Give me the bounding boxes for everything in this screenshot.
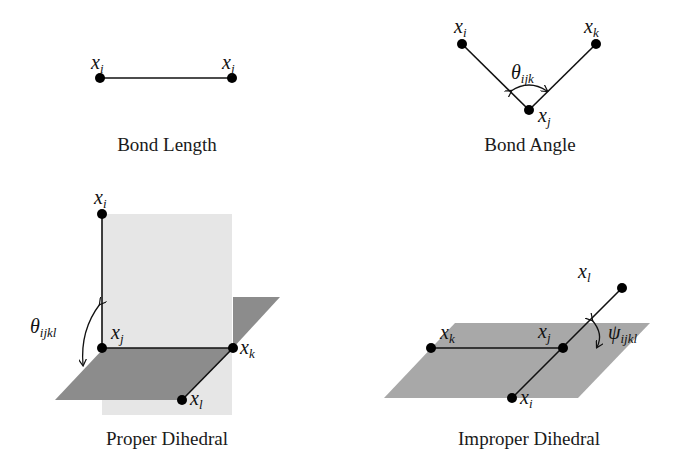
label-xl: xl	[577, 260, 591, 285]
label-xj: xj	[537, 104, 551, 129]
atom-xl	[617, 283, 627, 293]
atom-xl	[177, 395, 187, 405]
label-xk: xk	[239, 336, 255, 361]
label-xj: xj	[221, 51, 235, 76]
atom-xk	[426, 343, 436, 353]
atom-xj	[97, 343, 107, 353]
label-xi: xi	[93, 186, 107, 211]
label-theta-ijkl: θijkl	[30, 315, 57, 340]
atom-xk	[591, 39, 601, 49]
label-theta-ijk: θijk	[511, 61, 534, 86]
caption-bond-angle: Bond Angle	[484, 134, 575, 155]
label-xk: xk	[583, 15, 599, 40]
panel-improper-dihedral: xl xk xj xi ψijkl Improper Dihedral	[384, 260, 650, 449]
caption-bond-length: Bond Length	[117, 134, 217, 155]
label-xi: xi	[90, 51, 104, 76]
atom-xk	[228, 343, 238, 353]
label-xk: xk	[439, 321, 455, 346]
atom-xj	[558, 343, 568, 353]
caption-improper-dihedral: Improper Dihedral	[458, 428, 600, 449]
panel-bond-length: xi xj Bond Length	[90, 51, 237, 155]
panel-bond-angle: xi xk xj θijk Bond Angle	[453, 15, 601, 155]
atom-xi	[457, 39, 467, 49]
bond-line-kj	[529, 44, 596, 110]
label-xi: xi	[453, 15, 467, 40]
atom-xi	[507, 393, 517, 403]
atom-xj	[524, 105, 534, 115]
molecular-geometry-diagram: xi xj Bond Length xi xk xj θijk Bond Ang…	[0, 0, 684, 475]
caption-proper-dihedral: Proper Dihedral	[106, 428, 228, 449]
panel-proper-dihedral: xi xj xk xl θijkl Proper Dihedral	[30, 186, 280, 449]
